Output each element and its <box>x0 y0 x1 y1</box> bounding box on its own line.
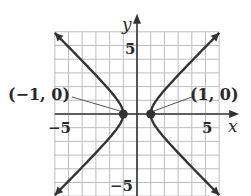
y-tick-5: 5 <box>125 40 135 58</box>
y-axis-label: y <box>121 14 132 34</box>
x-axis-label: x <box>228 116 238 136</box>
y-tick-neg5: −5 <box>110 177 133 195</box>
x-tick-5: 5 <box>202 119 212 137</box>
vertex-label-right: (1, 0) <box>190 85 239 104</box>
x-tick-neg5: −5 <box>48 119 71 137</box>
hyperbola-chart: y x 5 −5 −5 5 (−1, 0) (1, 0) <box>0 0 251 196</box>
vertex-label-left: (−1, 0) <box>8 85 70 104</box>
